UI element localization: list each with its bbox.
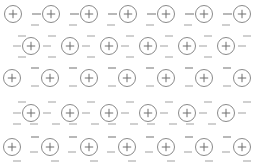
- metallic-lattice-figure: [0, 0, 256, 167]
- metal-ion: [42, 70, 59, 87]
- metal-ion: [196, 139, 213, 156]
- metal-ion: [120, 6, 137, 23]
- metal-ion: [119, 139, 136, 156]
- metal-ion: [4, 70, 21, 87]
- metal-ion-layer: [4, 6, 251, 156]
- metal-ion: [158, 70, 175, 87]
- metal-ion: [140, 38, 157, 55]
- metal-ion: [5, 6, 22, 23]
- metal-ion: [218, 38, 235, 55]
- metal-ion: [234, 139, 251, 156]
- metal-ion: [42, 139, 59, 156]
- metal-ion: [4, 139, 21, 156]
- metal-ion: [179, 105, 196, 122]
- lattice-canvas: [0, 0, 256, 167]
- metal-ion: [179, 38, 196, 55]
- metal-ion: [62, 105, 79, 122]
- metal-ion: [62, 38, 79, 55]
- metal-ion: [119, 70, 136, 87]
- metal-ion: [23, 38, 40, 55]
- metal-ion: [81, 139, 98, 156]
- metal-ion: [234, 6, 251, 23]
- metal-ion: [81, 6, 98, 23]
- metal-ion: [234, 70, 251, 87]
- metal-ion: [81, 70, 98, 87]
- metal-ion: [43, 6, 60, 23]
- metal-ion: [158, 6, 175, 23]
- metal-ion: [101, 105, 118, 122]
- metal-ion: [101, 38, 118, 55]
- metal-ion: [23, 105, 40, 122]
- metal-ion: [218, 105, 235, 122]
- metal-ion: [196, 6, 213, 23]
- metal-ion: [158, 139, 175, 156]
- metal-ion: [196, 70, 213, 87]
- metal-ion: [140, 105, 157, 122]
